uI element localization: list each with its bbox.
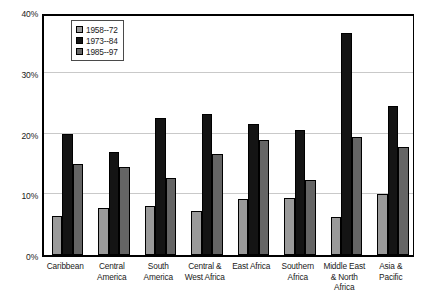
y-axis-tick-label: 0% xyxy=(0,252,38,262)
bar-group xyxy=(323,16,370,255)
bar xyxy=(388,106,399,255)
legend-item: 1973--84 xyxy=(76,35,118,46)
y-axis-tick-label: 40% xyxy=(0,9,38,19)
bar xyxy=(248,124,259,255)
legend: 1958--721973--841985--97 xyxy=(71,20,124,61)
x-axis-tick-label-line: Asia & xyxy=(362,261,421,272)
legend-swatch-icon xyxy=(76,37,83,44)
bar xyxy=(398,147,409,255)
bar xyxy=(119,167,130,255)
x-axis-tick-label-line: Pacific xyxy=(362,272,421,283)
bar-group xyxy=(277,16,324,255)
bar-chart: 0%10%20%30%40% CaribbeanCentralAmericaSo… xyxy=(0,0,424,308)
bar xyxy=(73,164,84,255)
bar xyxy=(259,140,270,255)
bar xyxy=(98,208,109,255)
x-axis-tick-label-line: Africa xyxy=(315,282,374,293)
bar xyxy=(305,180,316,255)
bar-group xyxy=(137,16,184,255)
bar xyxy=(52,216,63,255)
bar xyxy=(62,134,73,256)
bar-group xyxy=(230,16,277,255)
bar xyxy=(145,206,156,255)
bar xyxy=(212,154,223,255)
bar xyxy=(352,137,363,255)
bar xyxy=(331,217,342,255)
bar-group xyxy=(184,16,231,255)
bar xyxy=(202,114,213,255)
x-axis-category-labels: CaribbeanCentralAmericaSouthAmericaCentr… xyxy=(42,261,414,307)
bar xyxy=(166,178,177,255)
bar-group xyxy=(370,16,417,255)
bar xyxy=(109,152,120,255)
legend-label: 1985--97 xyxy=(86,47,118,57)
bar xyxy=(295,130,306,255)
legend-swatch-icon xyxy=(76,26,83,33)
y-axis-tick-label: 30% xyxy=(0,70,38,80)
bar xyxy=(191,211,202,255)
legend-item: 1958--72 xyxy=(76,24,118,35)
y-axis-tick-label: 20% xyxy=(0,131,38,141)
bar xyxy=(341,33,352,255)
y-axis-tick-label: 10% xyxy=(0,191,38,201)
bar xyxy=(377,194,388,255)
legend-item: 1985--97 xyxy=(76,46,118,57)
x-axis-tick-label: Asia &Pacific xyxy=(362,261,421,282)
bar xyxy=(155,118,166,255)
bar xyxy=(284,198,295,255)
legend-swatch-icon xyxy=(76,48,83,55)
legend-label: 1958--72 xyxy=(86,25,118,35)
x-axis-tick-label-line: West Africa xyxy=(176,272,235,283)
legend-label: 1973--84 xyxy=(86,36,118,46)
bar xyxy=(238,199,249,255)
